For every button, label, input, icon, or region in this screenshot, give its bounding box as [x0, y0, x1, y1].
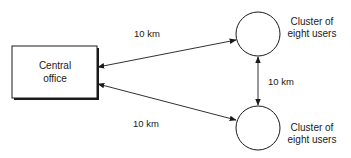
central-office-label-line1: Central	[39, 60, 71, 71]
cluster-bottom-label-line1: Cluster of	[291, 122, 334, 133]
distance-label-top-bottom: 10 km	[268, 76, 294, 87]
arrow-office-to-top-cluster	[98, 40, 236, 67]
central-office-label-line2: office	[43, 73, 67, 84]
cluster-top-circle	[236, 12, 280, 56]
central-office-box	[12, 46, 97, 98]
network-diagram: Central office Cluster of eight users Cl…	[0, 0, 351, 158]
arrow-office-to-bottom-cluster	[98, 84, 236, 120]
cluster-top-label-line1: Cluster of	[291, 16, 334, 27]
central-office-node: Central office	[12, 46, 99, 100]
distance-label-office-top: 10 km	[134, 28, 160, 39]
cluster-top-label-line2: eight users	[288, 28, 337, 39]
cluster-bottom-label-line2: eight users	[288, 134, 337, 145]
cluster-bottom-node: Cluster of eight users	[236, 106, 336, 150]
cluster-top-node: Cluster of eight users	[236, 12, 336, 56]
distance-label-office-bottom: 10 km	[133, 118, 159, 129]
cluster-bottom-circle	[236, 106, 280, 150]
